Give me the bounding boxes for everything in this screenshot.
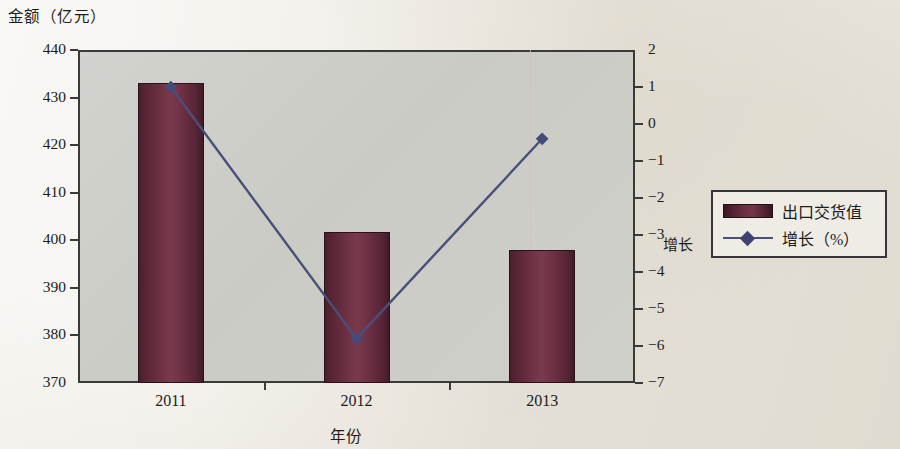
left-axis-tick-label: 430 — [6, 88, 66, 106]
left-axis-tick-label: 370 — [6, 373, 66, 391]
right-axis-tick-mark — [635, 123, 643, 125]
left-axis-tick-label: 410 — [6, 183, 66, 201]
right-axis-tick-label: −4 — [648, 262, 708, 280]
left-axis-tick-mark — [70, 192, 78, 194]
y-axis-title: 金额（亿元） — [8, 4, 106, 26]
x-axis-tick-mark — [449, 383, 451, 390]
legend-item-line: 增长（%） — [723, 225, 859, 251]
right-axis-tick-label: 0 — [648, 114, 708, 132]
right-axis-tick-mark — [635, 197, 643, 199]
right-axis-tick-mark — [635, 308, 643, 310]
bar — [324, 232, 390, 383]
right-axis-tick-mark — [635, 160, 643, 162]
right-axis-tick-label: 2 — [648, 40, 708, 58]
x-axis-tick-mark — [264, 383, 266, 390]
right-axis-tick-label: −1 — [648, 151, 708, 169]
right-axis-tick-label: 1 — [648, 77, 708, 95]
left-axis-tick-mark — [70, 287, 78, 289]
right-axis-tick-mark — [635, 234, 643, 236]
x-axis-tick-label: 2012 — [312, 392, 402, 410]
right-axis-tick-label: −5 — [648, 299, 708, 317]
right-axis-tick-label: −3 — [648, 225, 708, 243]
left-axis-tick-mark — [70, 334, 78, 336]
x-axis-tick-label: 2013 — [497, 392, 587, 410]
line-diamond-swatch-icon — [723, 231, 773, 245]
left-axis-tick-mark — [70, 49, 78, 51]
left-axis-tick-mark — [70, 239, 78, 241]
right-axis-tick-mark — [635, 271, 643, 273]
bar-swatch-icon — [723, 204, 773, 218]
x-axis-title: 年份 — [330, 424, 363, 446]
left-axis-tick-mark — [70, 144, 78, 146]
right-axis-tick-mark — [635, 86, 643, 88]
right-axis-tick-label: −7 — [648, 373, 708, 391]
right-axis-tick-mark — [635, 345, 643, 347]
chart-legend: 出口交货值 增长（%） — [711, 190, 887, 258]
legend-label-line: 增长（%） — [782, 226, 859, 250]
bar — [509, 250, 575, 383]
right-axis-tick-label: −6 — [648, 336, 708, 354]
left-axis-tick-label: 400 — [6, 230, 66, 248]
x-axis-tick-label: 2011 — [126, 392, 216, 410]
bar — [138, 83, 204, 383]
legend-label-bar: 出口交货值 — [782, 199, 862, 223]
left-axis-tick-label: 380 — [6, 325, 66, 343]
chart-page: 金额（亿元） 年份 增长 440430420410400390380370 21… — [0, 0, 900, 449]
legend-item-bar: 出口交货值 — [723, 198, 862, 224]
right-axis-tick-label: −2 — [648, 188, 708, 206]
left-axis-tick-label: 440 — [6, 40, 66, 58]
left-axis-tick-mark — [70, 97, 78, 99]
left-axis-tick-label: 420 — [6, 135, 66, 153]
right-axis-tick-mark — [635, 382, 643, 384]
left-axis-tick-label: 390 — [6, 278, 66, 296]
